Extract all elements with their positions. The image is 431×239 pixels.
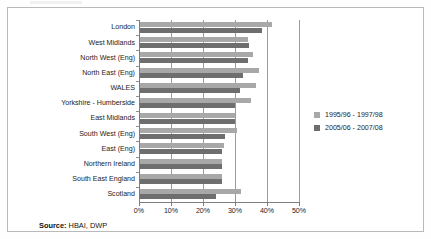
bar-west-midlands-series-0 bbox=[139, 37, 248, 42]
category-label: West Midlands bbox=[11, 39, 135, 47]
category-tickmark bbox=[136, 35, 139, 36]
value-tick-label: 10% bbox=[156, 207, 186, 215]
bar-london-series-0 bbox=[139, 22, 272, 27]
chart-frame: LondonWest MidlandsNorth West (Eng)North… bbox=[7, 7, 424, 232]
chart-legend: 1995/96 - 1997/982005/06 - 2007/08 bbox=[314, 108, 422, 134]
bar-northern-ireland-series-1 bbox=[139, 164, 222, 169]
bar-east-eng--series-1 bbox=[139, 149, 222, 154]
tickmark-10% bbox=[171, 202, 172, 206]
category-label: South East England bbox=[11, 175, 135, 183]
tickmark-20% bbox=[203, 202, 204, 206]
bar-south-east-england-series-0 bbox=[139, 174, 222, 179]
bar-east-midlands-series-0 bbox=[139, 113, 235, 118]
value-tick-label: 50% bbox=[284, 207, 314, 215]
category-tickmark bbox=[136, 172, 139, 173]
category-tickmark bbox=[136, 81, 139, 82]
plot-area bbox=[139, 20, 299, 202]
bar-yorkshire-humberside-series-1 bbox=[139, 103, 235, 108]
gridline-50% bbox=[299, 20, 300, 202]
category-label: East (Eng) bbox=[11, 145, 135, 153]
bar-london-series-1 bbox=[139, 28, 262, 33]
scan-artifact bbox=[30, 1, 82, 4]
legend-entry: 2005/06 - 2007/08 bbox=[314, 121, 422, 134]
source-label: Source: bbox=[39, 221, 67, 230]
source-value: HBAI, DWP bbox=[67, 221, 108, 230]
bar-north-west-eng--series-1 bbox=[139, 58, 248, 63]
category-label: London bbox=[11, 23, 135, 31]
bar-scotland-series-0 bbox=[139, 189, 241, 194]
legend-entry: 1995/96 - 1997/98 bbox=[314, 108, 422, 121]
category-label: East Midlands bbox=[11, 114, 135, 122]
value-tick-label: 0% bbox=[124, 207, 154, 215]
category-label: WALES bbox=[11, 84, 135, 92]
legend-swatch-icon bbox=[314, 112, 320, 118]
category-tickmark bbox=[136, 20, 139, 21]
value-axis-origin-line bbox=[139, 20, 140, 203]
gridline-40% bbox=[267, 20, 268, 202]
tickmark-40% bbox=[267, 202, 268, 206]
category-label: North West (Eng) bbox=[11, 54, 135, 62]
bar-south-west-eng--series-0 bbox=[139, 128, 237, 133]
bar-south-east-england-series-1 bbox=[139, 179, 222, 184]
category-label: Yorkshire - Humberside bbox=[11, 99, 135, 107]
value-tick-label: 40% bbox=[252, 207, 282, 215]
tickmark-50% bbox=[299, 202, 300, 206]
category-tickmark bbox=[136, 66, 139, 67]
bar-south-west-eng--series-1 bbox=[139, 134, 225, 139]
bar-north-east-eng--series-1 bbox=[139, 73, 243, 78]
bar-wales-series-0 bbox=[139, 83, 256, 88]
bar-north-west-eng--series-0 bbox=[139, 52, 253, 57]
bar-north-east-eng--series-0 bbox=[139, 68, 259, 73]
category-tickmark bbox=[136, 157, 139, 158]
bar-west-midlands-series-1 bbox=[139, 43, 249, 48]
category-axis-labels: LondonWest MidlandsNorth West (Eng)North… bbox=[8, 20, 135, 202]
source-note: Source: HBAI, DWP bbox=[39, 221, 107, 230]
category-tickmark bbox=[136, 50, 139, 51]
legend-swatch-icon bbox=[314, 125, 320, 131]
category-axis-line bbox=[139, 202, 300, 203]
figure-container: LondonWest MidlandsNorth West (Eng)North… bbox=[0, 0, 431, 239]
bar-wales-series-1 bbox=[139, 88, 240, 93]
category-tickmark bbox=[136, 126, 139, 127]
category-tickmark bbox=[136, 141, 139, 142]
legend-label: 2005/06 - 2007/08 bbox=[325, 124, 383, 132]
value-tick-label: 20% bbox=[188, 207, 218, 215]
bar-northern-ireland-series-0 bbox=[139, 159, 222, 164]
bar-scotland-series-1 bbox=[139, 194, 216, 199]
category-tickmark bbox=[136, 187, 139, 188]
category-label: South West (Eng) bbox=[11, 130, 135, 138]
bar-east-midlands-series-1 bbox=[139, 119, 235, 124]
bar-east-eng--series-0 bbox=[139, 143, 224, 148]
tickmark-30% bbox=[235, 202, 236, 206]
category-label: Northern Ireland bbox=[11, 160, 135, 168]
category-tickmark bbox=[136, 111, 139, 112]
category-label: North East (Eng) bbox=[11, 69, 135, 77]
bar-yorkshire-humberside-series-0 bbox=[139, 98, 251, 103]
category-tickmark bbox=[136, 96, 139, 97]
legend-label: 1995/96 - 1997/98 bbox=[325, 111, 383, 119]
category-label: Scotland bbox=[11, 190, 135, 198]
tickmark-0% bbox=[139, 202, 140, 206]
value-tick-label: 30% bbox=[220, 207, 250, 215]
